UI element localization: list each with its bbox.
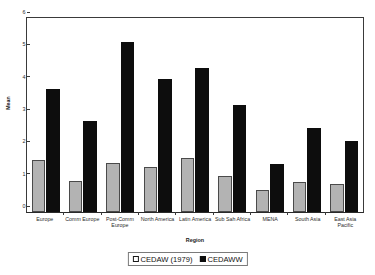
dark-square-icon: [199, 256, 205, 262]
chart-legend: CEDAW (1979)CEDAWW: [127, 252, 247, 266]
bar[interactable]: [106, 163, 120, 212]
bar-group: [214, 18, 251, 212]
legend-item[interactable]: CEDAW (1979): [132, 255, 192, 264]
bar-chart: Mean 0123456 EuropeComm EuropePost-Comm …: [0, 0, 375, 275]
bar[interactable]: [256, 190, 270, 212]
bar[interactable]: [121, 42, 135, 212]
y-axis-tick-mark: [27, 12, 30, 13]
bar[interactable]: [32, 160, 46, 212]
bar[interactable]: [218, 176, 232, 212]
x-axis-tick-label: North America: [139, 216, 177, 238]
light-square-icon: [132, 256, 138, 262]
bar[interactable]: [195, 68, 209, 212]
bars-layer: [27, 18, 363, 212]
bar-group: [139, 18, 176, 212]
x-axis-tick-labels: EuropeComm EuropePost-Comm EuropeNorth A…: [26, 216, 364, 238]
bar-group: [251, 18, 288, 212]
bar-group: [326, 18, 363, 212]
x-axis-tick-label: Sub Sah Africa: [214, 216, 252, 238]
legend-item[interactable]: CEDAWW: [199, 255, 242, 264]
x-axis-tick-label: Post-Comm Europe: [101, 216, 139, 238]
x-axis-tick-label: Latin America: [176, 216, 214, 238]
bar-group: [288, 18, 325, 212]
bar-group: [27, 18, 64, 212]
x-axis-title: Region: [26, 237, 364, 243]
bar-group: [176, 18, 213, 212]
bar[interactable]: [270, 164, 284, 212]
bar-group: [102, 18, 139, 212]
bar[interactable]: [330, 184, 344, 212]
x-axis-tick-label: Europe: [26, 216, 64, 238]
x-axis-tick-label: South Asia: [289, 216, 327, 238]
x-axis-tick-label: Comm Europe: [64, 216, 102, 238]
y-axis-title: Mean: [5, 83, 11, 123]
x-axis-tick-label: East Asia Pacific: [327, 216, 365, 238]
bar[interactable]: [83, 121, 97, 213]
legend-item-label: CEDAWW: [207, 255, 242, 264]
bar[interactable]: [181, 158, 195, 212]
bar-group: [64, 18, 101, 212]
plot-area: 0123456: [26, 17, 364, 213]
bar[interactable]: [46, 89, 60, 212]
bar[interactable]: [293, 182, 307, 212]
bar[interactable]: [69, 181, 83, 212]
bar[interactable]: [345, 141, 359, 212]
bar[interactable]: [158, 79, 172, 212]
bar[interactable]: [233, 105, 247, 212]
y-axis-tick: 6: [23, 9, 28, 15]
bar[interactable]: [307, 128, 321, 212]
x-axis-tick-label: MENA: [251, 216, 289, 238]
legend-item-label: CEDAW (1979): [140, 255, 192, 264]
bar[interactable]: [144, 167, 158, 212]
